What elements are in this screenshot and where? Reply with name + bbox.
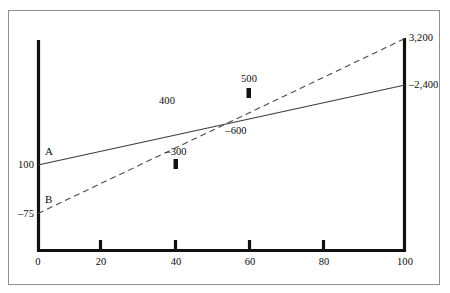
series-b-marker-40	[174, 159, 179, 169]
series-b-label: B	[45, 194, 52, 205]
x-tick-label-60: 60	[239, 256, 261, 267]
y-axis-label-100: 100	[6, 159, 34, 170]
plot-canvas	[0, 0, 450, 293]
x-tick-label-80: 80	[313, 256, 335, 267]
series-a-endpoint-value: –2,400	[409, 79, 438, 90]
x-tick-label-20: 20	[90, 256, 112, 267]
series-a-value-500: 500	[234, 73, 264, 84]
x-tick-label-0: 0	[28, 256, 48, 267]
x-tick-label-100: 100	[393, 256, 417, 267]
x-tick-label-40: 40	[165, 256, 187, 267]
series-a-marker-60	[247, 88, 252, 98]
series-a-value-400: 400	[152, 95, 182, 106]
series-b-value-minus-300: –300	[160, 146, 192, 157]
series-b-endpoint-value: 3,200	[409, 32, 433, 43]
y-axis-label-minus-75: –75	[6, 208, 34, 219]
series-b-value-minus-600: –600	[220, 125, 252, 136]
series-a-label: A	[45, 146, 53, 157]
chart-figure: 100 –75 0 20 40 60 80 100 A B 400 500 –2…	[0, 0, 450, 293]
